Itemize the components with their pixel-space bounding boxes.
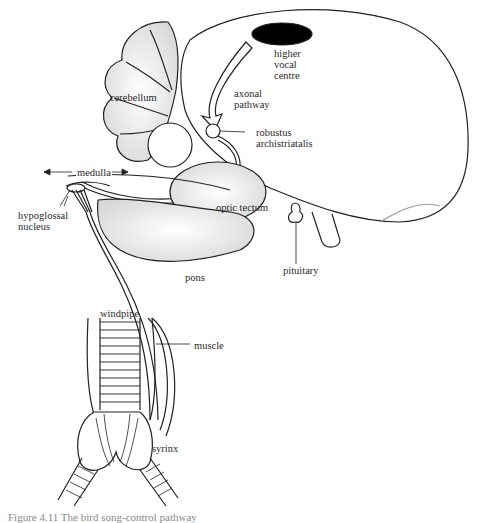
label-higher-vocal-centre: higher vocal centre xyxy=(274,48,301,81)
pituitary-shape xyxy=(289,203,303,222)
label-cerebellum: cerebellum xyxy=(110,92,157,103)
label-line: centre xyxy=(274,70,301,81)
label-robustus-archistriatalis: robustus archistriatalis xyxy=(256,127,313,149)
figure-caption: Figure 4.11 The bird song-control pathwa… xyxy=(8,511,197,523)
syrinx-shape xyxy=(58,412,178,506)
label-line: hypoglossal xyxy=(18,210,68,221)
label-windpipe: windpipe xyxy=(100,308,139,319)
label-optic-tectum: optic tectum xyxy=(216,202,268,213)
label-muscle: muscle xyxy=(194,340,224,351)
label-line: nucleus xyxy=(18,221,68,232)
label-pons: pons xyxy=(185,272,205,283)
label-hypoglossal-nucleus: hypoglossal nucleus xyxy=(18,210,68,232)
label-medulla: medulla xyxy=(76,167,112,178)
ra-nucleus xyxy=(206,124,220,138)
label-line: higher xyxy=(274,48,301,59)
label-line: archistriatalis xyxy=(256,138,313,149)
label-line: pathway xyxy=(234,99,270,110)
label-line: vocal xyxy=(274,59,301,70)
hvc-nucleus xyxy=(252,23,312,45)
label-line: axonal xyxy=(234,88,270,99)
label-syrinx: syrinx xyxy=(152,443,178,454)
label-axonal-pathway: axonal pathway xyxy=(234,88,270,110)
label-pituitary: pituitary xyxy=(283,265,319,276)
label-line: robustus xyxy=(256,127,313,138)
